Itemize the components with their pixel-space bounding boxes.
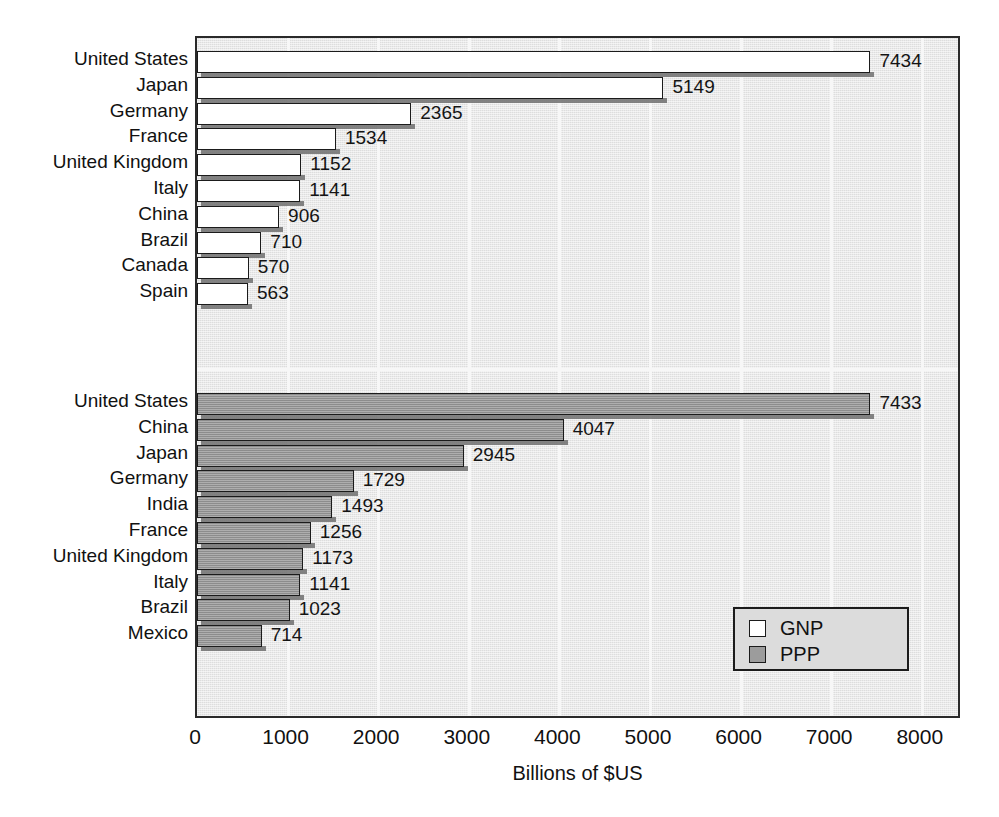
bar-chart-figure: 7434514923651534115211419067105705637433… <box>0 0 999 817</box>
bar-ppp-brazil[interactable] <box>197 599 290 621</box>
bar-value-label: 1256 <box>320 521 362 543</box>
x-tick-label-0: 0 <box>189 725 201 749</box>
category-label: Germany <box>110 467 188 489</box>
bar-gnp-germany[interactable] <box>197 103 411 125</box>
bar-gnp-italy[interactable] <box>197 180 300 202</box>
bar-ppp-mexico[interactable] <box>197 625 262 647</box>
category-label: United States <box>74 390 188 412</box>
bar-gnp-united-states[interactable] <box>197 51 870 73</box>
bar-row <box>197 393 870 415</box>
bar-value-label: 563 <box>257 282 289 304</box>
category-label: Japan <box>136 442 188 464</box>
x-tick-label-1000: 1000 <box>262 725 309 749</box>
bar-value-label: 1493 <box>341 495 383 517</box>
bar-value-label: 1729 <box>363 469 405 491</box>
bar-ppp-germany[interactable] <box>197 470 354 492</box>
bar-value-label: 906 <box>288 205 320 227</box>
category-label: France <box>129 125 188 147</box>
bar-row <box>197 128 336 150</box>
legend-swatch-ppp <box>749 646 766 663</box>
bar-row <box>197 51 870 73</box>
bar-ppp-india[interactable] <box>197 496 332 518</box>
bar-value-label: 570 <box>258 256 290 278</box>
gridline-8000 <box>921 38 924 716</box>
x-tick-label-2000: 2000 <box>353 725 400 749</box>
bar-ppp-china[interactable] <box>197 419 564 441</box>
bar-row <box>197 625 262 647</box>
bar-ppp-united-states[interactable] <box>197 393 870 415</box>
category-label: Japan <box>136 74 188 96</box>
category-label: Canada <box>121 254 188 276</box>
gridline-5000 <box>649 38 652 716</box>
category-label: United States <box>74 48 188 70</box>
category-label: India <box>147 493 188 515</box>
bar-value-label: 4047 <box>573 418 615 440</box>
category-label: China <box>138 203 188 225</box>
bar-ppp-japan[interactable] <box>197 445 464 467</box>
bar-ppp-united-kingdom[interactable] <box>197 548 303 570</box>
bar-row <box>197 599 290 621</box>
bar-row <box>197 522 311 544</box>
bar-row <box>197 496 332 518</box>
bar-row <box>197 470 354 492</box>
category-label: Italy <box>153 177 188 199</box>
bar-gnp-united-kingdom[interactable] <box>197 154 301 176</box>
category-label: Spain <box>139 280 188 302</box>
bar-row <box>197 154 301 176</box>
bar-gnp-china[interactable] <box>197 206 279 228</box>
bar-value-label: 5149 <box>672 76 714 98</box>
bar-row <box>197 232 261 254</box>
bar-value-label: 7434 <box>879 50 921 72</box>
bar-row <box>197 77 663 99</box>
category-label: United Kingdom <box>53 151 188 173</box>
scan-artifact-middle <box>300 770 720 786</box>
bar-gnp-spain[interactable] <box>197 283 248 305</box>
chart-legend: GNP PPP <box>733 607 909 671</box>
legend-label-gnp: GNP <box>780 618 823 638</box>
panel-separator <box>197 368 958 371</box>
bar-gnp-canada[interactable] <box>197 257 249 279</box>
bar-row <box>197 548 303 570</box>
bar-value-label: 710 <box>270 231 302 253</box>
bar-row <box>197 419 564 441</box>
bar-value-label: 1534 <box>345 127 387 149</box>
category-label: China <box>138 416 188 438</box>
x-tick-label-7000: 7000 <box>806 725 853 749</box>
bar-value-label: 1023 <box>299 598 341 620</box>
bar-value-label: 2365 <box>420 102 462 124</box>
gridline-4000 <box>558 38 561 716</box>
bar-row <box>197 574 300 596</box>
x-tick-label-4000: 4000 <box>534 725 581 749</box>
bar-row <box>197 283 248 305</box>
bar-value-label: 7433 <box>879 392 921 414</box>
bar-ppp-france[interactable] <box>197 522 311 544</box>
bar-gnp-france[interactable] <box>197 128 336 150</box>
legend-item-gnp: GNP <box>749 615 907 641</box>
legend-item-ppp: PPP <box>749 641 907 667</box>
bar-gnp-japan[interactable] <box>197 77 663 99</box>
bar-row <box>197 445 464 467</box>
category-label: Italy <box>153 571 188 593</box>
bar-row <box>197 103 411 125</box>
bar-value-label: 1141 <box>309 179 350 201</box>
x-tick-label-5000: 5000 <box>625 725 672 749</box>
bar-gnp-brazil[interactable] <box>197 232 261 254</box>
bar-value-label: 1141 <box>309 573 350 595</box>
bar-row <box>197 206 279 228</box>
category-label: United Kingdom <box>53 545 188 567</box>
bar-value-label: 714 <box>271 624 303 646</box>
x-tick-label-3000: 3000 <box>443 725 490 749</box>
category-label: France <box>129 519 188 541</box>
x-tick-label-6000: 6000 <box>715 725 762 749</box>
bar-value-label: 1152 <box>310 153 351 175</box>
bar-value-label: 1173 <box>312 547 353 569</box>
bar-ppp-italy[interactable] <box>197 574 300 596</box>
category-label: Brazil <box>140 229 188 251</box>
gridline-3000 <box>468 38 471 716</box>
bar-row <box>197 180 300 202</box>
category-label: Germany <box>110 100 188 122</box>
legend-swatch-gnp <box>749 620 766 637</box>
x-tick-label-8000: 8000 <box>896 725 943 749</box>
category-label: Mexico <box>128 622 188 644</box>
bar-row <box>197 257 249 279</box>
